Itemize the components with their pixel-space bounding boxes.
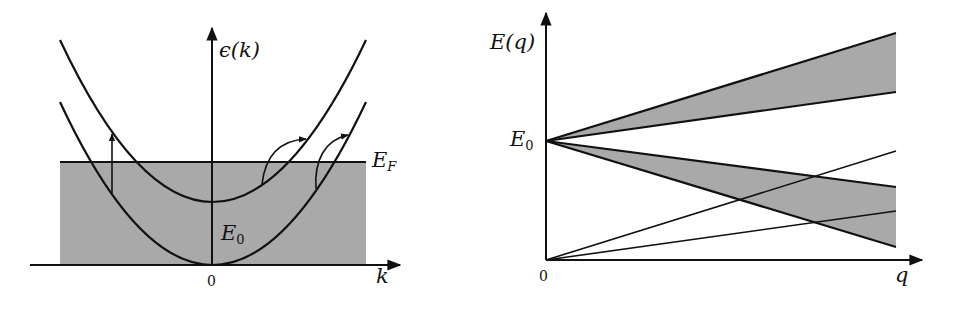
left-origin-label: 0 <box>207 273 216 289</box>
gap-energy-base: E <box>221 221 236 245</box>
e0-label: E0 <box>510 127 534 153</box>
eq-axis-label: E(q) <box>490 30 535 54</box>
right-panel <box>546 13 922 260</box>
left-panel <box>30 28 400 265</box>
fermi-energy-label: EF <box>372 148 396 174</box>
gap-energy-sub: 0 <box>236 232 244 247</box>
epsilon-k-label: ϵ(k) <box>219 38 260 62</box>
fermi-energy-base: E <box>372 148 387 172</box>
e0-sub: 0 <box>525 138 533 153</box>
right-origin-label: 0 <box>539 268 548 284</box>
q-axis-label: q <box>895 263 908 287</box>
gap-energy-label: E0 <box>221 221 245 247</box>
k-axis-label: k <box>376 264 389 288</box>
e0-base: E <box>510 127 525 151</box>
fermi-energy-sub: F <box>387 159 396 174</box>
diagram-canvas <box>0 0 956 312</box>
origin-line-shallow <box>546 211 896 260</box>
